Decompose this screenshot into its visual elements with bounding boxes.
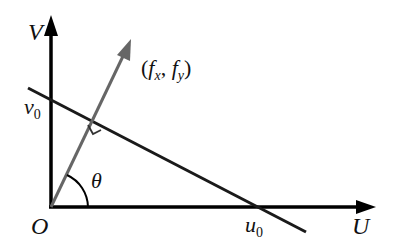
u-axis [49, 200, 376, 214]
u-axis-label: U [352, 213, 371, 239]
v-axis [44, 15, 58, 208]
vector-label: (fx, fy) [141, 55, 191, 83]
v-axis-arrowhead-icon [44, 15, 58, 36]
angle-arc-icon [67, 175, 88, 207]
diagram-canvas: V U O θ v0 u0 (fx, fy) [0, 0, 396, 252]
theta-label: θ [91, 168, 102, 193]
u0-label: u0 [245, 212, 263, 240]
constraint-line [28, 88, 306, 232]
vector-arrowhead-icon [117, 39, 131, 61]
u-axis-arrowhead-icon [356, 200, 376, 214]
v-axis-label: V [28, 19, 45, 45]
origin-label: O [31, 213, 48, 239]
v0-label: v0 [24, 94, 41, 122]
